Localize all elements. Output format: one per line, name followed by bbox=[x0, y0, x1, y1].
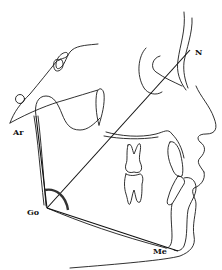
pterygomaxillary-fissure bbox=[96, 89, 104, 125]
cranial-base-contour bbox=[10, 44, 98, 123]
go-n-line bbox=[47, 50, 190, 208]
label-ar: Ar bbox=[12, 127, 24, 137]
cephalometric-diagram: N Ar Go Me bbox=[0, 0, 222, 270]
upper-molar bbox=[125, 144, 141, 173]
go-me-mandibular-plane bbox=[47, 208, 178, 251]
symphysis-inner bbox=[166, 204, 172, 248]
palatal-contour bbox=[10, 90, 98, 123]
ar-go-ramus-line bbox=[36, 116, 47, 208]
soft-tissue-profile-lips bbox=[70, 172, 204, 268]
label-me: Me bbox=[153, 246, 167, 256]
maxilla-base-contour bbox=[106, 131, 184, 158]
porion-circle bbox=[16, 95, 25, 104]
lower-molar bbox=[125, 174, 143, 204]
ramus-posterior-contour bbox=[35, 96, 100, 130]
orbit-contour bbox=[139, 48, 162, 94]
symphysis-contour bbox=[174, 177, 196, 250]
label-go: Go bbox=[27, 207, 40, 217]
label-n: N bbox=[195, 47, 202, 57]
soft-tissue-profile-nose bbox=[196, 86, 216, 172]
lower-incisor bbox=[167, 176, 184, 205]
